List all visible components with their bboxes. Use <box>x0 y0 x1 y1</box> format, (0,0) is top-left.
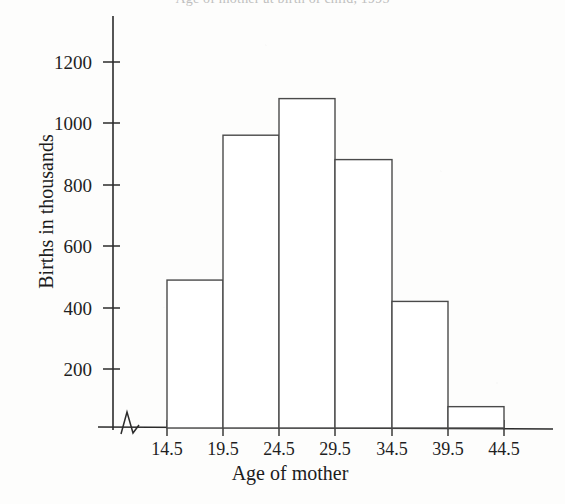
histogram-bar <box>392 301 448 428</box>
histogram-bar <box>223 135 279 428</box>
histogram-bar <box>335 160 392 428</box>
x-tick-label-24-5: 24.5 <box>249 440 309 458</box>
x-tick-label-19-5: 19.5 <box>193 440 253 458</box>
histogram-bar <box>167 280 223 428</box>
x-axis-title: Age of mother <box>185 462 395 485</box>
histogram-bar <box>448 407 504 428</box>
x-tick-label-34-5: 34.5 <box>362 440 422 458</box>
histogram-bar <box>279 99 335 428</box>
x-tick-label-29-5: 29.5 <box>305 440 365 458</box>
histogram-figure: Age of mother at birth of child, 1995 <box>0 0 565 504</box>
y-tick-label-200: 200 <box>22 360 92 379</box>
y-tick-marks <box>103 62 120 369</box>
y-axis-title: Births in thousands <box>35 102 58 322</box>
x-tick-label-14-5: 14.5 <box>137 440 197 458</box>
x-tick-label-44-5: 44.5 <box>474 440 534 458</box>
histogram-bars <box>167 99 504 428</box>
x-tick-label-39-5: 39.5 <box>418 440 478 458</box>
y-tick-label-1200: 1200 <box>22 53 92 72</box>
axis-break-zigzag-icon <box>121 412 139 434</box>
